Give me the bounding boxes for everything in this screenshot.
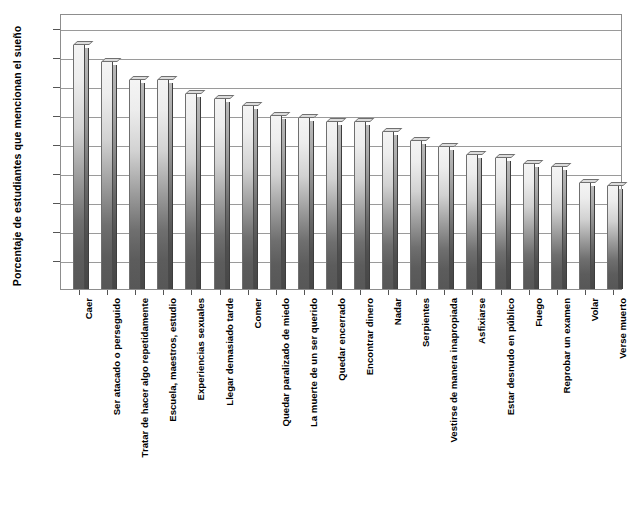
y-tick-mark-10 — [53, 261, 60, 262]
bar-front-face — [438, 147, 450, 289]
x-tick-label-4: Experiencias sexuales — [195, 298, 206, 400]
y-tick-mark-80 — [53, 58, 60, 59]
bar — [157, 80, 173, 289]
bar-top-face — [326, 118, 346, 122]
bar-front-face — [101, 62, 113, 289]
bar-side-face — [141, 83, 145, 289]
bar-side-face — [394, 135, 398, 289]
bar — [523, 164, 539, 289]
x-tick-label-8: La muerte de un ser querido — [308, 298, 319, 427]
gridline-80 — [61, 59, 621, 60]
bar — [214, 99, 230, 289]
bar-front-face — [326, 122, 338, 289]
bar-top-face — [495, 154, 515, 158]
bar-front-face — [579, 183, 591, 289]
x-tick-mark-6 — [248, 290, 249, 295]
y-tick-mark-70 — [53, 87, 60, 88]
bar-top-face — [466, 151, 486, 155]
bar-front-face — [607, 186, 619, 289]
bar-front-face — [242, 106, 254, 289]
bar-top-face — [579, 179, 599, 183]
y-tick-mark-90 — [53, 29, 60, 30]
bar-front-face — [551, 167, 563, 289]
bar-side-face — [226, 102, 230, 289]
x-tick-mark-15 — [501, 290, 502, 295]
bar-side-face — [450, 150, 454, 289]
bar-top-face — [242, 102, 262, 106]
gridline-90 — [61, 30, 621, 31]
bar-front-face — [157, 80, 169, 289]
bar-front-face — [73, 45, 85, 289]
bar-side-face — [422, 144, 426, 289]
bar-top-face — [73, 41, 93, 45]
bar — [495, 158, 511, 289]
bar-side-face — [563, 170, 567, 289]
x-tick-mark-19 — [613, 290, 614, 295]
bar-top-face — [607, 182, 627, 186]
x-tick-mark-3 — [163, 290, 164, 295]
bar — [382, 132, 398, 289]
bar-side-face — [535, 167, 539, 289]
bar-front-face — [354, 122, 366, 289]
bar-side-face — [282, 119, 286, 289]
bar — [270, 116, 286, 289]
bar-side-face — [113, 65, 117, 289]
bar-top-face — [354, 118, 374, 122]
x-tick-mark-12 — [416, 290, 417, 295]
bar-front-face — [214, 99, 226, 289]
y-tick-mark-20 — [53, 232, 60, 233]
bar-side-face — [366, 125, 370, 289]
x-tick-label-18: Volar — [589, 298, 600, 321]
x-tick-label-14: Asfixiarse — [476, 298, 487, 344]
bar-front-face — [270, 116, 282, 289]
x-tick-mark-17 — [557, 290, 558, 295]
bar-side-face — [507, 161, 511, 289]
bar-top-face — [185, 90, 205, 94]
bar-front-face — [185, 94, 197, 289]
bar-side-face — [338, 125, 342, 289]
bar-side-face — [197, 97, 201, 289]
bar-front-face — [523, 164, 535, 289]
bar-side-face — [478, 158, 482, 289]
y-tick-mark-30 — [53, 203, 60, 204]
bar — [298, 118, 314, 289]
x-tick-mark-10 — [360, 290, 361, 295]
bar — [326, 122, 342, 289]
bar-front-face — [298, 118, 310, 289]
x-tick-mark-16 — [529, 290, 530, 295]
bar-chart: Porcentaje de estudiantes que mencionan … — [0, 0, 634, 505]
x-tick-label-1: Ser atacado o perseguido — [111, 298, 122, 415]
bar-top-face — [382, 128, 402, 132]
x-tick-label-17: Reprobar un examen — [561, 298, 572, 393]
x-tick-mark-11 — [388, 290, 389, 295]
bar-side-face — [591, 186, 595, 289]
bar-front-face — [129, 80, 141, 289]
x-tick-label-19: Verse muerto — [617, 298, 628, 359]
bar-top-face — [157, 76, 177, 80]
bar — [101, 62, 117, 289]
y-axis-title: Porcentaje de estudiantes que mencionan … — [11, 11, 23, 301]
bar-top-face — [214, 95, 234, 99]
bar — [129, 80, 145, 289]
x-tick-label-6: Comer — [252, 298, 263, 328]
y-tick-mark-40 — [53, 174, 60, 175]
x-tick-mark-0 — [79, 290, 80, 295]
bar — [410, 141, 426, 289]
x-tick-label-7: Quedar paralizado de miedo — [280, 298, 291, 426]
x-tick-mark-7 — [276, 290, 277, 295]
bar-top-face — [129, 76, 149, 80]
bar-front-face — [382, 132, 394, 289]
x-tick-label-15: Estar desnudo en público — [505, 298, 516, 415]
x-tick-label-11: Nadar — [392, 298, 403, 325]
bar — [438, 147, 454, 289]
bar-side-face — [169, 83, 173, 289]
x-tick-mark-18 — [585, 290, 586, 295]
x-tick-mark-1 — [107, 290, 108, 295]
bar — [579, 183, 595, 289]
bar-side-face — [254, 109, 258, 289]
bar — [242, 106, 258, 289]
y-tick-mark-60 — [53, 116, 60, 117]
bar-top-face — [523, 160, 543, 164]
x-tick-label-9: Quedar encerrado — [336, 298, 347, 381]
x-tick-label-12: Serpientes — [420, 298, 431, 347]
